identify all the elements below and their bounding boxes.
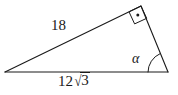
right-angle-marker-icon [129, 6, 147, 24]
radical-group: √3 [73, 73, 90, 89]
geometry-figure: 18 α 12√3 [0, 0, 178, 95]
radical-expression: 12√3 [58, 73, 90, 89]
radicand-value: 3 [80, 72, 90, 88]
label-base-length: 12√3 [58, 73, 90, 89]
label-angle-alpha: α [132, 52, 139, 66]
radical-coefficient: 12 [58, 74, 73, 89]
label-hypotenuse-length: 18 [51, 18, 66, 33]
angle-arc-alpha [148, 54, 160, 72]
right-angle-dot-icon [136, 14, 139, 17]
triangle-side-hypotenuse [5, 6, 141, 72]
